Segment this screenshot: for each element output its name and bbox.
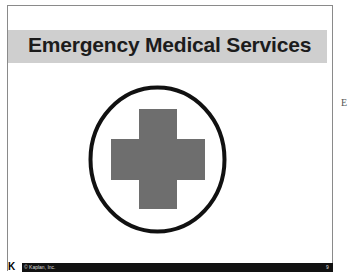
medical-cross-icon: [88, 85, 227, 234]
footer-bar: [8, 263, 333, 272]
copyright-text: © Kaplan, Inc.: [24, 263, 55, 272]
slide-title: Emergency Medical Services: [28, 33, 311, 57]
page-number: 9: [326, 263, 329, 272]
adjacent-slide-edge: E: [341, 97, 347, 108]
kaplan-logo: K: [8, 262, 22, 272]
